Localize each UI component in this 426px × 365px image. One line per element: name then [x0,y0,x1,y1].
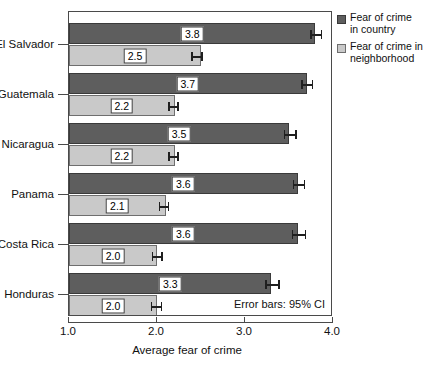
x-axis-line [68,322,332,323]
legend-label-country-line1: Fear of crime [350,12,426,24]
error-bar-cap-high [161,302,163,311]
y-axis-label-el-salvador: El Salvador [0,38,54,50]
x-axis-tick [244,317,245,323]
y-axis-tick [58,94,68,95]
y-axis-tick [58,294,68,295]
error-bar [284,134,295,136]
legend-item-neighborhood[interactable]: Fear of crime in neighborhood [337,41,426,64]
bar-value-label: 3.6 [172,227,195,242]
error-bar-cap-low [265,280,267,289]
legend-swatch-neighborhood-icon [337,44,346,53]
bar-value-label: 2.2 [110,149,133,164]
error-bar-cap-high [321,30,323,39]
error-bar-cap-low [168,102,170,111]
x-axis-tick-label: 1.0 [60,325,76,338]
y-axis-label-costa-rica: Costa Rica [0,238,54,250]
error-bar-cap-high [304,180,306,189]
error-bar [310,34,321,36]
y-axis-tick [58,194,68,195]
x-axis-tick-label: 4.0 [324,325,340,338]
error-bar-cap-low [151,302,153,311]
y-axis-tick [58,144,68,145]
error-bar-cap-high [295,130,297,139]
bar-value-label: 2.2 [110,99,133,114]
error-bar [265,284,278,286]
x-axis-title: Average fear of crime [0,344,426,356]
error-bar-cap-low [284,130,286,139]
error-bar-cap-high [278,280,280,289]
y-axis-tick [58,244,68,245]
bar-value-label: 3.6 [172,177,195,192]
bar-value-label: 3.5 [168,127,191,142]
y-axis-label-honduras: Honduras [4,288,54,300]
bar-value-label: 2.5 [124,49,147,64]
y-axis-label-panama: Panama [11,188,54,200]
y-axis-tick [58,44,68,45]
error-bar [292,234,305,236]
error-bar-cap-low [168,152,170,161]
bar-value-label: 3.7 [176,77,199,92]
error-bar-note: Error bars: 95% CI [234,298,325,310]
x-axis-tick [68,317,69,323]
error-bar-cap-low [310,30,312,39]
legend-item-country[interactable]: Fear of crime in country [337,12,426,35]
error-bar-cap-low [292,230,294,239]
error-bar-cap-low [191,52,193,61]
legend: Fear of crime in country Fear of crime i… [337,12,426,70]
error-bar-cap-high [177,102,179,111]
error-bar-cap-high [312,80,314,89]
error-bar [301,84,312,86]
bar-value-label: 2.0 [102,249,125,264]
legend-label-neighborhood-line2: neighborhood [350,53,426,65]
bar-value-label: 3.8 [181,27,204,42]
error-bar [293,184,304,186]
error-bar-cap-low [293,180,295,189]
error-bar-cap-low [152,252,154,261]
error-bar-cap-high [305,230,307,239]
error-bar-cap-low [301,80,303,89]
y-axis-label-guatemala: Guatemala [0,88,54,100]
error-bar-cap-high [168,202,170,211]
x-axis-tick [156,317,157,323]
legend-label-country-line2: in country [350,24,426,36]
x-axis-title-text: Average fear of crime [132,344,242,356]
legend-label-neighborhood-line1: Fear of crime in [350,41,426,53]
bar-value-label: 2.1 [106,199,129,214]
x-axis-tick [332,317,333,323]
plot-area: 3.82.53.72.23.52.23.62.13.62.03.32.0Erro… [68,11,332,316]
error-bar-cap-high [161,252,163,261]
bar-value-label: 2.0 [102,299,125,314]
legend-swatch-country-icon [337,15,346,24]
chart-container: 3.82.53.72.23.52.23.62.13.62.03.32.0Erro… [0,0,426,365]
error-bar-cap-high [201,52,203,61]
error-bar-cap-high [177,152,179,161]
y-axis-label-nicaragua: Nicaragua [2,138,54,150]
x-axis-tick-label: 2.0 [148,325,164,338]
error-bar-cap-low [159,202,161,211]
bar-value-label: 3.3 [159,277,182,292]
x-axis-tick-label: 3.0 [236,325,252,338]
